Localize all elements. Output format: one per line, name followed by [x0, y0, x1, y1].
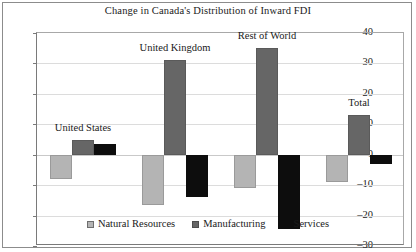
bar-united-states-services [94, 144, 116, 155]
chart-legend: Natural ResourcesManufacturingServices [3, 219, 413, 230]
group-label-total: Total [299, 98, 416, 109]
bar-rest-of-world-natural-resources [234, 155, 256, 188]
bar-united-kingdom-natural-resources [142, 155, 164, 205]
legend-label: Natural Resources [98, 219, 175, 230]
bar-united-kingdom-services [186, 155, 208, 198]
legend-swatch-icon-mf [192, 221, 199, 228]
gridline--30 [37, 246, 403, 247]
group-label-united-kingdom: United Kingdom [115, 43, 235, 54]
bar-united-states-manufacturing [72, 140, 94, 155]
y-tick--30 [33, 246, 37, 247]
legend-swatch-icon-sv [283, 221, 290, 228]
legend-label: Manufacturing [203, 219, 265, 230]
y-tick--20 [33, 216, 37, 217]
y-tick--10 [33, 185, 37, 186]
legend-item-natural-resources[interactable]: Natural Resources [87, 219, 175, 230]
y-tick-20 [33, 94, 37, 95]
bar-united-states-natural-resources [50, 155, 72, 179]
legend-swatch-icon-nr [87, 221, 94, 228]
bar-total-natural-resources [326, 155, 348, 182]
plot-area: United StatesUnited KingdomRest of World… [36, 32, 404, 245]
bar-total-manufacturing [348, 115, 370, 155]
chart-figure: Change in Canada's Distribution of Inwar… [2, 2, 412, 248]
legend-item-manufacturing[interactable]: Manufacturing [192, 219, 265, 230]
gridline-30 [37, 63, 403, 64]
gridline-0 [37, 155, 403, 156]
group-label-rest-of-world: Rest of World [207, 31, 327, 42]
gridline-20 [37, 94, 403, 95]
y-tick-40 [33, 33, 37, 34]
bar-total-services [370, 155, 392, 164]
gridline--10 [37, 185, 403, 186]
group-label-united-states: United States [23, 123, 143, 134]
chart-title: Change in Canada's Distribution of Inwar… [3, 5, 413, 16]
bar-united-kingdom-manufacturing [164, 60, 186, 154]
legend-label: Services [294, 219, 330, 230]
bar-rest-of-world-manufacturing [256, 48, 278, 155]
y-tick-0 [33, 155, 37, 156]
gridline--20 [37, 216, 403, 217]
legend-item-services[interactable]: Services [283, 219, 330, 230]
y-tick-30 [33, 63, 37, 64]
